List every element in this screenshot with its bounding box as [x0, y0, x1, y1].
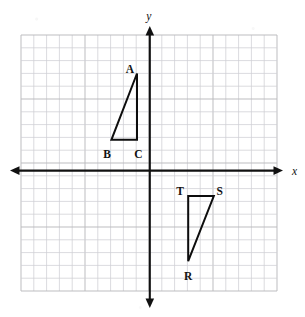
vertex-label-s: S — [217, 185, 223, 197]
vertex-label-r: R — [184, 270, 193, 282]
vertex-label-a: A — [126, 63, 135, 75]
y-axis-label: y — [145, 10, 152, 23]
coordinate-plane-figure: x y ABCRST — [0, 0, 305, 317]
vertex-label-b: B — [103, 148, 111, 160]
x-axis-label: x — [291, 165, 298, 177]
vertex-label-c: C — [134, 148, 142, 160]
vertex-label-t: T — [176, 185, 184, 197]
